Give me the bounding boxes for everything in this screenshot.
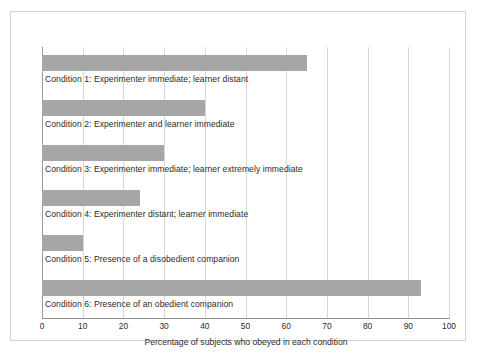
bar-condition-1	[42, 55, 307, 71]
bar-label-condition-1: Condition 1: Experimenter immediate; lea…	[45, 74, 248, 84]
x-tick-label-60: 60	[282, 321, 291, 331]
x-tick-label-50: 50	[241, 321, 250, 331]
bar-label-condition-4: Condition 4: Experimenter distant; learn…	[45, 209, 248, 219]
bar-row: Condition 3: Experimenter immediate; lea…	[42, 142, 449, 187]
bar-row: Condition 2: Experimenter and learner im…	[42, 97, 449, 142]
bar-condition-2	[42, 100, 205, 116]
bar-row: Condition 6: Presence of an obedient com…	[42, 277, 449, 322]
bar-row: Condition 4: Experimenter distant; learn…	[42, 187, 449, 232]
bar-condition-3	[42, 145, 164, 161]
x-tick-label-0: 0	[40, 321, 45, 331]
bar-label-condition-2: Condition 2: Experimenter and learner im…	[45, 119, 235, 129]
bar-row: Condition 5: Presence of a disobedient c…	[42, 232, 449, 277]
bar-condition-6	[42, 280, 421, 296]
bar-label-condition-5: Condition 5: Presence of a disobedient c…	[45, 254, 239, 264]
x-tick-label-80: 80	[363, 321, 372, 331]
x-tick-label-10: 10	[78, 321, 87, 331]
plot-area: Condition 1: Experimenter immediate; lea…	[42, 47, 449, 318]
gridline-100	[449, 47, 450, 318]
x-tick-label-40: 40	[200, 321, 209, 331]
x-tick-label-30: 30	[159, 321, 168, 331]
chart-frame: Condition 1: Experimenter immediate; lea…	[10, 11, 466, 341]
bar-label-condition-6: Condition 6: Presence of an obedient com…	[45, 299, 233, 309]
x-tick-label-90: 90	[404, 321, 413, 331]
bar-row: Condition 1: Experimenter immediate; lea…	[42, 52, 449, 97]
bar-condition-4	[42, 190, 140, 206]
x-tick-label-70: 70	[322, 321, 331, 331]
x-tick-label-20: 20	[119, 321, 128, 331]
x-axis-label: Percentage of subjects who obeyed in eac…	[42, 337, 450, 347]
bar-condition-5	[42, 235, 83, 251]
bar-label-condition-3: Condition 3: Experimenter immediate; lea…	[45, 164, 303, 174]
bar-chart-figure: Condition 1: Experimenter immediate; lea…	[0, 0, 480, 361]
x-tick-label-100: 100	[442, 321, 456, 331]
